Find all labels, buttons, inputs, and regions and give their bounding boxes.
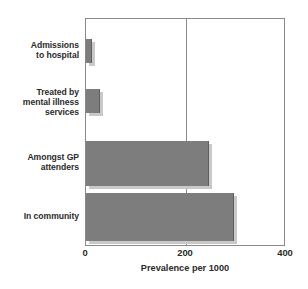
bar-treated-by-mental-illness-services [86, 89, 100, 113]
bar-in-community [86, 193, 234, 241]
bar-admissions-to-hospital [86, 39, 92, 63]
category-label-line: to hospital [0, 50, 79, 60]
category-label-line: Amongst GP [0, 152, 79, 162]
x-tick-label-400: 400 [277, 247, 293, 258]
category-label-line: Admissions [0, 40, 79, 50]
x-axis-ticks: 0 200 400 [0, 247, 308, 261]
bar-amongst-gp-attenders [86, 141, 209, 186]
category-label-line: mental illness [0, 97, 79, 107]
bar-fill [86, 193, 234, 241]
category-label-admissions-to-hospital: Admissions to hospital [0, 40, 79, 61]
x-axis-title: Prevalence per 1000 [85, 263, 285, 273]
cropped-caption-sliver [0, 281, 308, 289]
category-label-line: services [0, 107, 79, 117]
category-label-in-community: In community [0, 211, 79, 221]
x-tick-label-0: 0 [82, 247, 87, 258]
bar-chart-figure: Admissions to hospital Treated by mental… [0, 0, 308, 289]
category-label-line: attenders [0, 162, 79, 172]
category-axis-labels: Admissions to hospital Treated by mental… [0, 18, 79, 246]
bar-fill [86, 141, 209, 186]
category-label-treated-by-mental-illness-services: Treated by mental illness services [0, 87, 79, 118]
bar-fill [86, 89, 100, 113]
x-tick-label-200: 200 [177, 247, 193, 258]
category-label-amongst-gp-attenders: Amongst GP attenders [0, 152, 79, 173]
category-label-line: In community [0, 211, 79, 221]
category-label-line: Treated by [0, 87, 79, 97]
bar-fill [86, 39, 92, 63]
plot-area [85, 18, 285, 246]
